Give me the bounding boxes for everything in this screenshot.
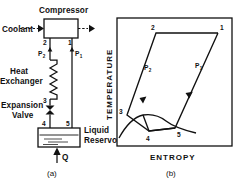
ts-x-axis-label: ENTROPY: [150, 153, 196, 162]
coolant-label: Coolant: [2, 25, 33, 34]
compressor-box: [44, 19, 78, 38]
point-label-2-schematic: 2: [43, 39, 47, 46]
point-label-3-chart: 3: [119, 108, 123, 115]
heat-exchanger-label-line2: Exchanger: [0, 77, 43, 86]
flow-arrow-point1: [70, 47, 75, 52]
point-label-4-schematic: 4: [42, 120, 46, 127]
liquid-reservoir-label-line1: Liquid: [84, 126, 109, 135]
point-label-5-schematic: 5: [66, 120, 70, 127]
figure-container: Compressor Coolant Heat Exchanger Expans…: [0, 0, 239, 184]
heat-input-label: Q: [62, 153, 69, 162]
svg-text:1: 1: [200, 66, 203, 71]
svg-text:2: 2: [149, 68, 152, 73]
coolant-inflow-arrowhead: [38, 25, 44, 32]
svg-text:2: 2: [43, 54, 46, 59]
coolant-outflow-arrowhead: [89, 25, 95, 32]
pressure-p2-schematic: P 2: [38, 50, 46, 59]
heat-exchanger-label-line1: Heat: [10, 67, 28, 76]
point-label-2-chart: 2: [151, 24, 155, 31]
flow-arrow-point2: [48, 47, 53, 52]
expansion-valve-label-line2: Valve: [12, 111, 34, 120]
point-label-1-schematic: 1: [68, 39, 72, 46]
svg-text:1: 1: [80, 54, 83, 59]
point-label-1-chart: 1: [220, 24, 224, 31]
pressure-p1-schematic: P 1: [75, 50, 83, 59]
expansion-valve-upper-triangle: [46, 106, 55, 111]
point-label-3-schematic: 3: [43, 97, 47, 104]
expansion-valve-label-line1: Expansion: [1, 101, 43, 110]
heat-exchanger-coil: [50, 60, 57, 99]
ts-y-axis-label: TEMPERATURE: [105, 49, 114, 120]
heat-input-arrowhead: [53, 148, 60, 156]
panel-a-caption: (a): [47, 169, 57, 178]
compressor-label: Compressor: [39, 6, 89, 15]
point-label-5-chart: 5: [177, 131, 181, 138]
point-label-4-chart: 4: [146, 135, 150, 142]
figure-svg: Compressor Coolant Heat Exchanger Expans…: [0, 0, 239, 184]
panel-b-ts-diagram: 2 1 3 4 5 P 2 P 1 TEMPERATURE ENTROPY (b…: [105, 18, 232, 178]
ts-plot-frame: [117, 18, 232, 146]
panel-b-caption: (b): [166, 169, 176, 178]
expansion-valve-lower-triangle: [46, 110, 55, 115]
